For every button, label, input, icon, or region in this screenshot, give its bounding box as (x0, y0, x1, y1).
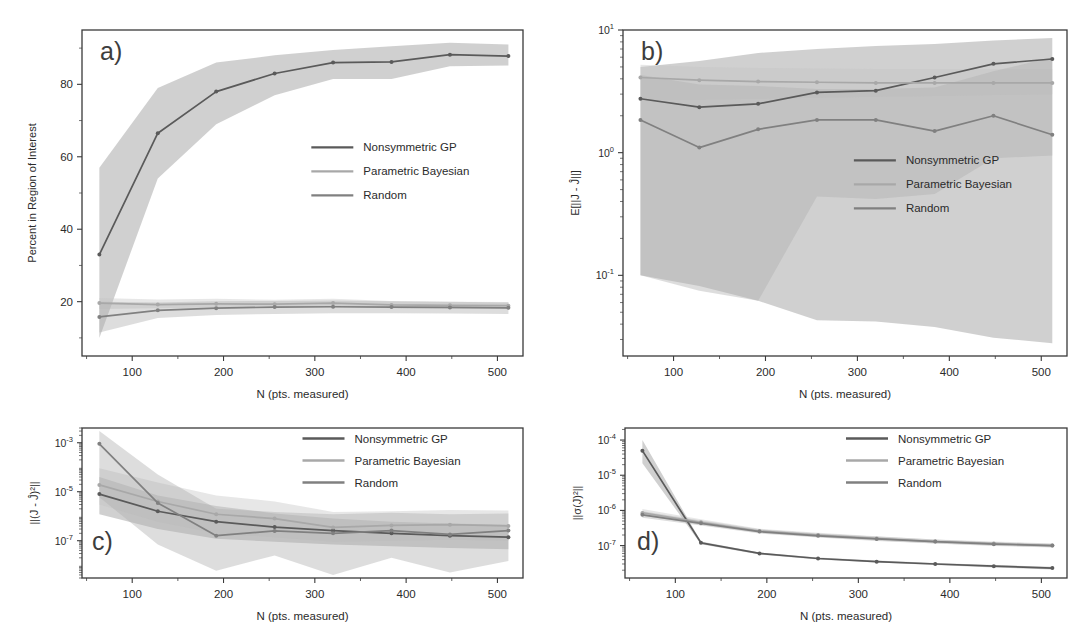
data-point (758, 551, 762, 555)
subplot-c: 10020030040050010-310-510-7N (pts. measu… (0, 412, 545, 630)
x-tick-label: 400 (397, 588, 416, 600)
legend-a: Nonsymmetric GPParametric BayesianRandom (311, 141, 469, 201)
y-tick-label: 10-1 (596, 267, 614, 281)
legend-label-3: Random (906, 202, 949, 214)
data-point (756, 102, 760, 106)
y-tick-label: 100 (598, 145, 614, 159)
x-tick-label: 300 (849, 588, 868, 600)
data-point (97, 492, 101, 496)
y-tick-label: 10-5 (55, 484, 73, 498)
data-point (1050, 81, 1054, 85)
data-point (992, 564, 996, 568)
legend-label-2: Parametric Bayesian (363, 165, 469, 177)
data-point (992, 542, 996, 546)
data-point (214, 306, 218, 310)
x-tick-label: 100 (123, 366, 142, 378)
x-axis-title: N (pts. measured) (256, 610, 348, 622)
data-point (815, 118, 819, 122)
y-axis-title: ||σ(J)²|| (571, 486, 583, 521)
x-tick-label: 200 (214, 588, 233, 600)
data-point (214, 534, 218, 538)
y-axis-title: E[||J - Ĵ||] (569, 170, 581, 216)
x-tick-label: 500 (488, 366, 507, 378)
data-point (697, 78, 701, 82)
data-point (448, 523, 452, 527)
plot-d: 10020030040050010-410-510-610-7N (pts. m… (545, 412, 1089, 630)
y-tick-label: 101 (598, 22, 614, 36)
data-point (815, 80, 819, 84)
data-point (273, 305, 277, 309)
data-point (156, 509, 160, 513)
data-point (390, 305, 394, 309)
data-point (506, 306, 510, 310)
legend-label-1: Nonsymmetric GP (355, 433, 449, 445)
y-tick-label: 40 (60, 223, 73, 235)
data-point (816, 534, 820, 538)
legend-label-3: Random (363, 189, 406, 201)
data-point (156, 308, 160, 312)
legend-label-1: Nonsymmetric GP (363, 141, 457, 153)
data-point (506, 54, 510, 58)
confidence-band-c-3 (99, 431, 508, 575)
data-point (506, 524, 510, 528)
subplot-d: 10020030040050010-410-510-610-7N (pts. m… (545, 412, 1089, 630)
data-point (991, 114, 995, 118)
data-point (448, 532, 452, 536)
data-point (638, 75, 642, 79)
data-point (97, 483, 101, 487)
data-point (390, 60, 394, 64)
legend-label-1: Nonsymmetric GP (906, 154, 1000, 166)
confidence-band-a-1 (99, 43, 508, 338)
axes-frame (625, 428, 1067, 578)
data-point (273, 525, 277, 529)
data-point (97, 315, 101, 319)
x-tick-label: 100 (664, 366, 683, 378)
plot-area-a (97, 43, 510, 338)
plot-c: 10020030040050010-310-510-7N (pts. measu… (0, 412, 545, 630)
data-point (875, 537, 879, 541)
y-tick-label: 10-4 (598, 432, 616, 446)
data-point (214, 302, 218, 306)
data-point (273, 71, 277, 75)
data-point (331, 305, 335, 309)
y-axis-title: Percent in Region of Interest (26, 123, 38, 262)
x-tick-label: 500 (1032, 366, 1051, 378)
data-point (97, 253, 101, 257)
x-tick-label: 400 (940, 588, 959, 600)
x-tick-label: 300 (305, 588, 324, 600)
x-tick-label: 500 (1032, 588, 1051, 600)
figure-canvas: 10020030040050020406080N (pts. measured)… (0, 0, 1089, 630)
data-point (933, 540, 937, 544)
x-axis-title: N (pts. measured) (799, 388, 891, 400)
y-tick-label: 60 (60, 151, 73, 163)
data-point (156, 131, 160, 135)
data-point (390, 529, 394, 533)
legend-label-2: Parametric Bayesian (898, 455, 1004, 467)
confidence-band-d-2 (642, 509, 1052, 547)
data-point (815, 90, 819, 94)
y-axis-title: ||(J - Ĵ)²|| (28, 481, 40, 524)
data-point (390, 523, 394, 527)
x-tick-label: 500 (488, 588, 507, 600)
data-point (273, 517, 277, 521)
data-point (156, 501, 160, 505)
plot-area-c (97, 431, 510, 575)
data-point (699, 521, 703, 525)
plot-b: 10020030040050010-1100101N (pts. measure… (545, 8, 1089, 412)
legend-label-2: Parametric Bayesian (906, 178, 1012, 190)
data-point (697, 146, 701, 150)
data-point (640, 449, 644, 453)
legend-d: Nonsymmetric GPParametric BayesianRandom (846, 433, 1004, 489)
data-point (273, 529, 277, 533)
x-axis-title: N (pts. measured) (800, 610, 892, 622)
data-point (448, 53, 452, 57)
data-point (991, 62, 995, 66)
panel-label-c: c) (92, 527, 113, 555)
x-tick-label: 200 (756, 366, 775, 378)
data-point (933, 75, 937, 79)
legend-c: Nonsymmetric GPParametric BayesianRandom (303, 433, 461, 489)
x-tick-label: 200 (757, 588, 776, 600)
data-point (506, 535, 510, 539)
data-point (97, 301, 101, 305)
panel-label-d: d) (637, 527, 659, 555)
